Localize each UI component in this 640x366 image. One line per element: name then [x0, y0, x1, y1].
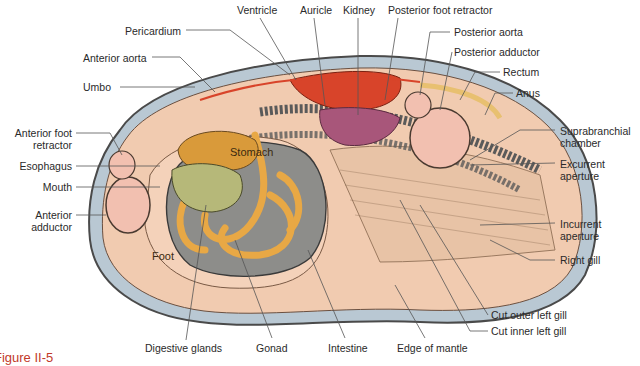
- label-incurrent-aperture: Incurrent aperture: [560, 218, 601, 242]
- label-posterior-foot-retractor: Posterior foot retractor: [388, 4, 492, 16]
- label-suprabranchial-chamber: Suprabranchial chamber: [560, 125, 631, 149]
- label-anterior-aorta: Anterior aorta: [83, 52, 147, 64]
- anterior-adductor: [106, 177, 150, 233]
- label-cut-inner-left-gill: Cut inner left gill: [491, 325, 566, 337]
- label-anterior-adductor: Anterior adductor: [31, 209, 72, 233]
- label-posterior-adductor: Posterior adductor: [454, 46, 540, 58]
- label-posterior-aorta: Posterior aorta: [454, 26, 523, 38]
- label-ventricle: Ventricle: [237, 4, 277, 16]
- label-cut-outer-left-gill: Cut outer left gill: [491, 309, 567, 321]
- label-right-gill: Right gill: [560, 254, 600, 266]
- label-auricle: Auricle: [300, 4, 332, 16]
- label-intestine: Intestine: [328, 342, 368, 354]
- label-rectum: Rectum: [503, 66, 539, 78]
- label-esophagus: Esophagus: [19, 160, 72, 172]
- label-pericardium: Pericardium: [125, 25, 181, 37]
- label-edge-of-mantle: Edge of mantle: [397, 342, 468, 354]
- label-excurrent-aperture: Excurrent aperture: [560, 158, 605, 182]
- posterior-foot-retractor: [405, 92, 431, 118]
- label-digestive-glands: Digestive glands: [145, 342, 222, 354]
- stomach-label: Stomach: [230, 146, 273, 158]
- label-kidney: Kidney: [343, 4, 375, 16]
- label-anterior-foot-retractor: Anterior foot retractor: [15, 127, 72, 151]
- label-mouth: Mouth: [43, 181, 72, 193]
- label-gonad: Gonad: [256, 342, 288, 354]
- label-umbo: Umbo: [83, 81, 111, 93]
- foot-label: Foot: [152, 250, 174, 262]
- figure-caption: Figure II-5: [0, 350, 53, 365]
- label-anus: Anus: [516, 87, 540, 99]
- anterior-foot-retractor: [109, 151, 135, 179]
